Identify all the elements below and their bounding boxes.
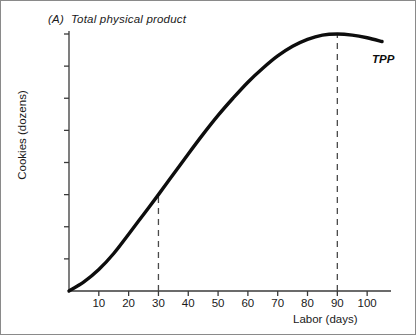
annotation-lines-group: [158, 34, 337, 291]
curve-series-label: TPP: [372, 53, 394, 65]
data-curve-group: [69, 34, 382, 291]
axes-group: [69, 31, 391, 291]
chart-plot-area: [1, 1, 416, 335]
figure-panel: (A)Total physical product Cookies (dozen…: [0, 0, 416, 335]
tpp-curve-path: [69, 34, 382, 291]
